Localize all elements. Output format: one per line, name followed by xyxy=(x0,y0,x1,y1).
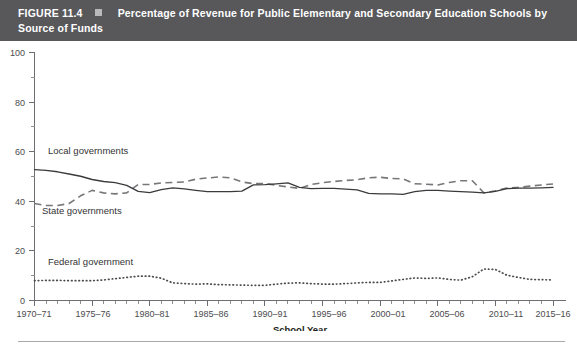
x-axis-major-ticks xyxy=(35,301,554,307)
x-axis-title: School Year xyxy=(273,324,328,331)
x-tick-label: 1985–86 xyxy=(193,309,228,319)
figure-title-part-one: Percentage of Revenue for Public Element… xyxy=(118,7,547,19)
series-line-local xyxy=(35,170,554,195)
series-label-local: Local governments xyxy=(48,145,129,156)
y-tick-label: 100 xyxy=(10,48,25,58)
y-axis-tick-labels: 100 80 60 40 20 0 xyxy=(10,48,25,306)
banner-first-line: FIGURE 11.4Percentage of Revenue for Pub… xyxy=(18,6,563,21)
x-tick-label: 1995–96 xyxy=(311,309,346,319)
square-bullet-icon xyxy=(95,9,102,16)
x-tick-label: 2000–01 xyxy=(370,309,405,319)
x-tick-label: 2015–16 xyxy=(535,309,570,319)
y-tick-label: 0 xyxy=(20,296,25,306)
x-axis-tick-labels: 1970–71 1975–76 1980–81 1985–86 1990–91 … xyxy=(16,309,570,319)
bottom-divider xyxy=(18,341,565,342)
x-tick-label: 1990–91 xyxy=(252,309,287,319)
figure-banner: FIGURE 11.4Percentage of Revenue for Pub… xyxy=(0,0,577,41)
series-label-state: State governments xyxy=(42,205,122,216)
x-tick-label: 2005–06 xyxy=(429,309,464,319)
figure-number-label: FIGURE 11.4 xyxy=(18,7,83,19)
series-line-federal xyxy=(35,269,554,285)
y-tick-label: 80 xyxy=(15,98,25,108)
x-tick-label: 1970–71 xyxy=(16,309,51,319)
y-tick-label: 60 xyxy=(15,147,25,157)
series-line-state xyxy=(35,177,554,206)
y-tick-label: 20 xyxy=(15,246,25,256)
figure-title-part-two: Source of Funds xyxy=(18,21,563,36)
chart-container: 100 80 60 40 20 0 1970–71 1975–76 1980–8… xyxy=(0,41,577,331)
series-label-federal: Federal government xyxy=(48,256,133,267)
x-tick-label: 2010–11 xyxy=(489,309,523,319)
y-tick-label: 40 xyxy=(15,197,25,207)
revenue-source-line-chart: 100 80 60 40 20 0 1970–71 1975–76 1980–8… xyxy=(0,41,577,331)
x-tick-label: 1975–76 xyxy=(75,309,110,319)
x-tick-label: 1980–81 xyxy=(134,309,169,319)
y-axis-minor-ticks xyxy=(31,77,35,275)
